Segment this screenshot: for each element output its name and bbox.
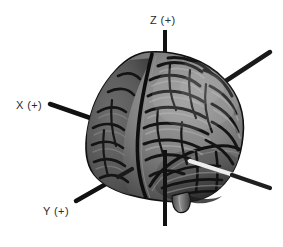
- x-negative-axis-line-outside-brain: [232, 175, 270, 188]
- crown-specular-core: [180, 72, 224, 104]
- brain-render: [78, 52, 245, 213]
- x-axis-label: X (+): [16, 100, 42, 111]
- y-axis-label: Y (+): [43, 206, 69, 217]
- brain-axes-figure: Z (+) X (+) Y (+): [0, 0, 283, 247]
- z-axis-label: Z (+): [150, 15, 176, 26]
